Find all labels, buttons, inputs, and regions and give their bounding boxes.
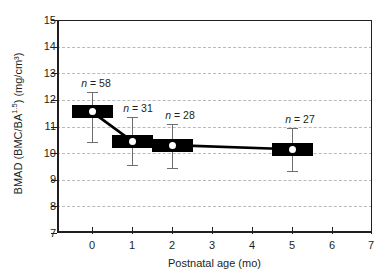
n-value: = 31 (129, 102, 153, 114)
marker-center-dot (169, 142, 176, 149)
bmad-vs-postnatal-age-chart: 15 14 13 12 11 10 9 8 7 0 1 2 3 4 5 6 7 … (0, 0, 390, 280)
xtick-label-7: 7 (358, 239, 384, 251)
marker-center-dot (89, 108, 96, 115)
n-value: = 58 (87, 77, 111, 89)
error-bar-cap-lower (87, 142, 98, 143)
error-bar-cap-upper (287, 128, 298, 129)
y-axis-title-main: BMAD (BMC/BA (12, 114, 24, 195)
n-value: = 27 (291, 113, 315, 125)
ytick-label-11: 11 (26, 121, 56, 132)
marker-center-dot (129, 138, 136, 145)
xtick-mark-2 (172, 227, 173, 234)
xtick-mark-4 (252, 227, 253, 234)
xtick-mark-7 (371, 227, 372, 234)
sample-size-label: n = 27 (285, 114, 315, 125)
xtick-label-0: 0 (79, 239, 105, 251)
sample-size-label: n = 28 (165, 110, 195, 121)
ytick-label-14: 14 (26, 41, 56, 52)
xtick-label-5: 5 (279, 239, 305, 251)
xtick-label-4: 4 (239, 239, 265, 251)
y-axis-title-exponent: 1.5 (10, 103, 19, 113)
error-bar-cap-lower (287, 171, 298, 172)
xtick-label-1: 1 (119, 239, 145, 251)
xtick-mark-0 (92, 227, 93, 234)
plot-frame-right (371, 20, 372, 234)
y-axis-title: BMAD (BMC/BA1.5) (mg/cm³) (12, 24, 25, 224)
ytick-label-12: 12 (26, 94, 56, 105)
xtick-label-3: 3 (199, 239, 225, 251)
x-axis-title: Postnatal age (mo) (57, 257, 372, 270)
ytick-label-9: 9 (26, 174, 56, 185)
error-bar-cap-upper (87, 92, 98, 93)
sample-size-label: n = 31 (123, 103, 153, 114)
ytick-label-15: 15 (26, 15, 56, 26)
xtick-label-6: 6 (319, 239, 345, 251)
marker-center-dot (289, 146, 296, 153)
plot-frame (57, 20, 372, 233)
error-bar-cap-upper (167, 124, 178, 125)
xtick-mark-6 (332, 227, 333, 234)
sample-size-label: n = 58 (81, 78, 111, 89)
xtick-label-2: 2 (159, 239, 185, 251)
ytick-label-10: 10 (26, 148, 56, 159)
ytick-label-8: 8 (26, 201, 56, 212)
xtick-mark-5 (292, 227, 293, 234)
n-value: = 28 (171, 109, 195, 121)
ytick-label-13: 13 (26, 68, 56, 79)
y-axis-title-tail: ) (mg/cm³) (12, 53, 24, 104)
xtick-mark-1 (132, 227, 133, 234)
error-bar-cap-lower (127, 165, 138, 166)
plot-frame-top (57, 20, 372, 21)
xtick-mark-3 (212, 227, 213, 234)
ytick-label-7: 7 (26, 228, 56, 239)
error-bar-cap-lower (167, 168, 178, 169)
error-bar-cap-upper (127, 117, 138, 118)
